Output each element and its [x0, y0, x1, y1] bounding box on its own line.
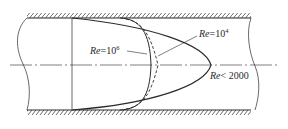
- label-re-1e4-exp: 4: [225, 27, 228, 34]
- label-re-1e4: Re=104: [199, 29, 228, 39]
- label-re-1e6-op: =10: [101, 45, 117, 56]
- left-break-line: [17, 18, 29, 110]
- label-re-laminar-symbol: Re: [210, 70, 221, 81]
- label-re-1e6: Re=106: [90, 46, 119, 56]
- bottom-pipe-wall: [27, 110, 251, 115]
- pipe-velocity-profile-diagram: [0, 0, 288, 129]
- leader-line-re-1e6: [127, 51, 147, 54]
- laminar-profile: [72, 18, 211, 110]
- label-re-1e6-exp: 6: [116, 44, 119, 51]
- label-re-1e4-op: =10: [210, 28, 226, 39]
- top-pipe-wall: [27, 13, 251, 18]
- right-break-line: [248, 18, 258, 110]
- label-re-1e4-symbol: Re: [199, 28, 210, 39]
- label-re-laminar-op: < 2000: [221, 70, 249, 81]
- label-re-1e6-symbol: Re: [90, 45, 101, 56]
- label-re-laminar: Re< 2000: [210, 71, 249, 81]
